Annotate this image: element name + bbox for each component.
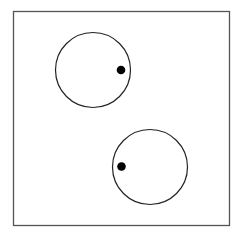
dot-marker	[117, 66, 126, 75]
dot-marker	[117, 162, 126, 171]
diagram-frame	[14, 12, 230, 226]
diagram-canvas	[0, 0, 246, 237]
circle-group-2	[113, 130, 188, 205]
circle-group-1	[56, 33, 131, 108]
